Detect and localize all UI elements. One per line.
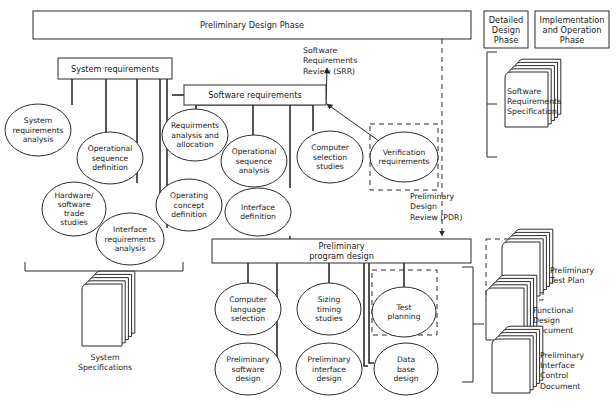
text-line: Phase — [494, 35, 518, 45]
text-line: Requirments — [171, 121, 219, 130]
text-line: requirements — [13, 126, 64, 135]
text-line: selection — [231, 314, 265, 323]
text-line: analysis — [115, 244, 146, 253]
activity-operating-concept-definition[interactable]: Operatingconceptdefinition — [156, 179, 222, 231]
phase-boxes: Preliminary Design PhaseDetailedDesignPh… — [33, 11, 609, 48]
process-box-preliminary-program-design[interactable]: Preliminaryprogram design — [212, 239, 471, 263]
text-line: Interface — [113, 225, 147, 234]
text-line: Preliminary Design Phase — [200, 20, 304, 30]
activity-hardware-software-trade-studies[interactable]: Hardware/softwaretradestudies — [42, 182, 106, 236]
text-line: Data — [397, 355, 415, 364]
activity-sizing-timing-studies[interactable]: Sizingtimingstudies — [297, 283, 361, 335]
text-line: Preliminary — [540, 351, 584, 360]
text-line: Review (PDR) — [410, 213, 463, 222]
text-line: design — [393, 374, 418, 383]
text-line: System — [24, 116, 52, 125]
text-line: requirements — [379, 157, 430, 166]
activity-requirements-analysis-and-allocation[interactable]: Requirmentsanalysis andallocation — [162, 109, 228, 161]
text-line: program design — [309, 251, 374, 261]
text-line: Verification — [383, 148, 426, 157]
text-line: interface — [312, 365, 346, 374]
activity-system-requirements-analysis[interactable]: Systemrequirementsanalysis — [5, 104, 71, 156]
text-line: Phase — [560, 35, 584, 45]
document-system-specifications[interactable]: SystemSpecifications — [78, 271, 135, 372]
text-line: Operational — [88, 144, 133, 153]
text-line: definition — [171, 210, 207, 219]
activity-interface-requirements-analysis[interactable]: Interfacerequirementsanalysis — [96, 213, 164, 265]
software-development-phase-diagram: Preliminary Design PhaseDetailedDesignPh… — [0, 0, 616, 420]
text-line: Preliminary — [227, 355, 270, 364]
text-line: design — [235, 374, 260, 383]
text-line: System — [90, 353, 119, 362]
activity-preliminary-software-design[interactable]: Preliminarysoftwaredesign — [215, 343, 281, 395]
text-line: Hardware/ — [54, 191, 94, 200]
text-line: Preliminary — [410, 192, 454, 201]
annotation-software-requirements-review-srr: SoftwareRequirementsReview (SRR) — [303, 46, 357, 76]
text-line: selection — [313, 153, 347, 162]
text-line: sequence — [92, 154, 129, 163]
text-line: Interface — [241, 203, 275, 212]
activity-operational-sequence-analysis[interactable]: Operationalsequenceanalysis — [221, 135, 287, 187]
text-line: requirements — [105, 235, 156, 244]
text-line: Control — [540, 371, 568, 380]
activity-computer-language-selection[interactable]: Computerlanguageselection — [215, 283, 281, 335]
text-line: Test Plan — [549, 276, 584, 285]
text-line: Operational — [232, 147, 277, 156]
text-line: Implementation — [539, 15, 604, 25]
phase-box-detailed-design-phase[interactable]: DetailedDesignPhase — [484, 11, 528, 48]
text-line: Preliminary — [318, 241, 364, 251]
text-line: definition — [92, 163, 128, 172]
text-line: Interface — [540, 361, 575, 370]
document-preliminary-interface-control-document[interactable]: PreliminaryInterfaceControlDocument — [492, 326, 584, 393]
process-box-system-requirements[interactable]: System requirements — [58, 58, 172, 79]
text-line: studies — [316, 162, 343, 171]
text-line: Design — [492, 25, 520, 35]
activity-computer-selection-studies[interactable]: Computerselectionstudies — [297, 131, 363, 183]
activity-interface-definition[interactable]: Interfacedefinition — [225, 188, 291, 236]
text-line: Design — [533, 316, 560, 325]
activity-test-planning[interactable]: Testplanning — [372, 287, 436, 337]
phase-box-implementation-and-operation-phase[interactable]: Implementationand OperationPhase — [535, 11, 609, 48]
text-line: analysis — [239, 166, 270, 175]
text-line: timing — [317, 305, 341, 314]
text-line: Sizing — [318, 295, 341, 304]
text-line: Software — [507, 87, 542, 96]
text-line: Design — [410, 202, 437, 211]
text-line: definition — [240, 212, 276, 221]
text-line: concept — [174, 201, 204, 210]
activity-data-base-design[interactable]: Databasedesign — [374, 343, 438, 395]
activity-verification-requirements[interactable]: Verificationrequirements — [370, 132, 438, 182]
text-line: System requirements — [71, 64, 159, 74]
text-line: Requirements — [303, 56, 357, 65]
text-line: Software — [303, 46, 338, 55]
text-line: Computer — [311, 143, 350, 152]
text-line: Document — [540, 382, 580, 391]
text-line: analysis — [23, 135, 54, 144]
text-line: Preliminary — [308, 355, 351, 364]
phase-box-preliminary-design-phase[interactable]: Preliminary Design Phase — [33, 11, 471, 39]
text-line: Requirements — [507, 97, 561, 106]
text-line: design — [316, 374, 341, 383]
text-line: studies — [315, 314, 342, 323]
text-line: Computer — [229, 295, 268, 304]
process-box-software-requirements[interactable]: Software requirements — [184, 85, 326, 105]
text-line: Functional — [533, 306, 573, 315]
text-line: sequence — [236, 157, 273, 166]
document-software-requirements-specification[interactable]: SoftwareRequirementsSpecification — [505, 59, 561, 127]
activity-preliminary-interface-design[interactable]: Preliminaryinterfacedesign — [296, 343, 362, 395]
text-line: Detailed — [489, 15, 523, 25]
document-cover — [492, 339, 530, 393]
text-line: Test — [396, 303, 412, 312]
text-line: Preliminary — [550, 266, 594, 275]
text-line: software — [58, 200, 91, 209]
text-line: analysis and — [171, 131, 219, 140]
text-line: Software requirements — [208, 90, 301, 100]
text-line: Operating — [170, 191, 208, 200]
text-line: Review (SRR) — [303, 67, 355, 76]
text-line: Specifications — [78, 363, 132, 372]
text-line: base — [397, 365, 415, 374]
text-line: language — [230, 305, 266, 314]
activity-operational-sequence-definition[interactable]: Operationalsequencedefinition — [77, 132, 143, 184]
text-line: Specification — [507, 107, 557, 116]
text-line: planning — [388, 312, 421, 321]
